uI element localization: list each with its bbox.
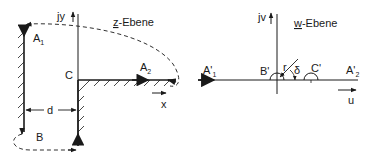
point-label-A1-prime: A'1 [203,64,216,78]
point-label-A1: A1 [33,32,44,46]
point-label-C-prime: C' [311,62,321,74]
point-label-A2-prime: A'2 [346,64,359,78]
arrow-left-icon [26,24,32,25]
point-label-B-prime: B' [260,65,269,77]
center-electrode-horizontal-hatching [84,80,170,86]
z-plane: jy x [14,10,179,150]
w-plane-title: w-Ebene [293,17,337,29]
point-label-B: B [36,131,43,143]
point-label-A2: A2 [140,61,151,75]
center-electrode-vertical-hatching [78,86,84,132]
conformal-mapping-diagram: jy x [0,0,371,158]
v-axis-label: jv [257,11,266,23]
dimension-label-d: d [47,104,53,116]
indentation-at-C-prime [304,73,318,80]
left-wall-hatching [18,32,24,118]
u-axis-label: u [348,94,354,106]
w-plane: jv u r δ A'1 B' C' A'2 w-Ebene [198,11,359,106]
angle-label-delta: δ [294,64,300,76]
radius-label-r: r [283,61,287,73]
z-plane-title: z-Ebene [113,16,154,28]
point-label-C: C [65,69,73,81]
y-axis-label: jy [56,10,65,22]
x-axis-label: x [161,98,167,110]
